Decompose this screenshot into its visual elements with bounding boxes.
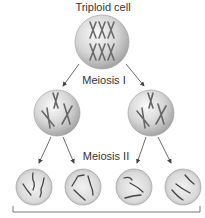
products-bracket: [13, 206, 200, 212]
meiosis2-cell-4: [165, 169, 201, 205]
arrow-to-right-cell: [126, 64, 144, 86]
meiosis2-cell-3: [116, 169, 152, 205]
meiosis1-left-cell: [34, 90, 80, 136]
arrow-to-left-cell: [63, 64, 79, 86]
triploid-cell-title: Triploid cell: [75, 1, 130, 13]
meiosis2-cell-2: [65, 169, 101, 205]
meiosis-1-label: Meiosis I: [82, 74, 125, 86]
diagram-graphics: [0, 0, 205, 218]
arrow-to-cell-2: [63, 137, 74, 163]
triploid-cell: [75, 15, 129, 69]
arrow-to-cell-3: [137, 137, 146, 163]
triploid-meiosis-diagram: Triploid cell Meiosis I Meiosis II: [0, 0, 205, 218]
meiosis-2-label: Meiosis II: [83, 150, 129, 162]
meiosis2-cell-1: [16, 169, 52, 205]
arrow-to-cell-4: [158, 137, 171, 163]
arrow-to-cell-1: [39, 137, 51, 163]
meiosis1-right-cell: [128, 90, 174, 136]
